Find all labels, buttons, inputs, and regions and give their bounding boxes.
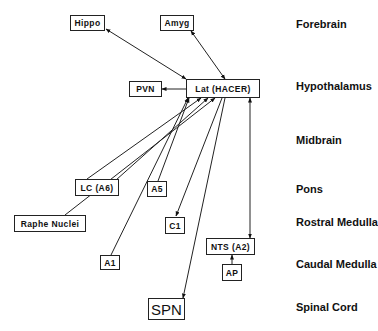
node-a1: A1 (100, 255, 120, 270)
region-label-hypothalamus: Hypothalamus (296, 80, 372, 92)
node-raphe-nuclei: Raphe Nuclei (14, 215, 86, 232)
node-amyg: Amyg (160, 15, 194, 31)
edge-lat-spn (183, 98, 225, 298)
node-nts-a2: NTS (A2) (206, 238, 255, 255)
edge-hippo-lat (106, 29, 186, 79)
region-label-caudal-medulla: Caudal Medulla (296, 258, 377, 270)
edge-raphe-lat (65, 98, 215, 215)
region-label-midbrain: Midbrain (296, 134, 342, 146)
edge-amyg-lat (191, 31, 225, 79)
node-lc-a6: LC (A6) (75, 179, 119, 196)
region-label-forebrain: Forebrain (296, 18, 347, 30)
node-c1: C1 (165, 217, 185, 234)
region-label-pons: Pons (296, 183, 323, 195)
node-a5: A5 (147, 181, 167, 197)
node-hippo: Hippo (70, 15, 105, 31)
node-ap: AP (222, 264, 242, 281)
node-spn: SPN (148, 298, 185, 320)
region-label-rostral-medulla: Rostral Medulla (296, 216, 378, 228)
node-pvn: PVN (129, 81, 162, 97)
node-lat-hacer: Lat (HACER) (186, 79, 260, 98)
region-label-spinal-cord: Spinal Cord (296, 301, 358, 313)
edge-lc-lat (87, 98, 201, 179)
edge-a5-lat (158, 98, 189, 181)
